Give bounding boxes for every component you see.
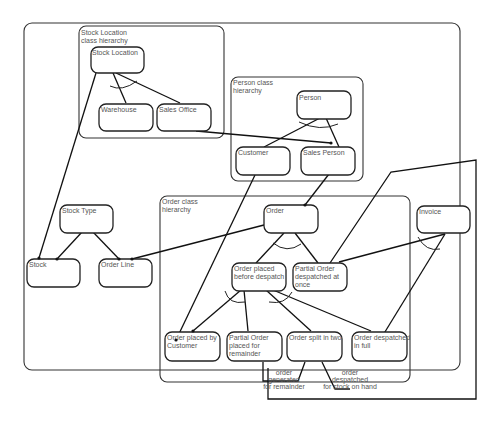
- arrowhead: [37, 256, 40, 259]
- node-label: Sales Person: [303, 149, 345, 156]
- node-invoice[interactable]: Invoice: [417, 206, 470, 233]
- node-label: remainder: [229, 350, 261, 357]
- node-label: Stock: [29, 261, 47, 268]
- node-label: Order: [266, 207, 285, 214]
- arrowhead: [130, 257, 133, 260]
- node-label: Order Line: [101, 261, 134, 268]
- group-label-line: Stock Location: [81, 29, 127, 36]
- node-label: in full: [354, 342, 371, 349]
- edge-order-order-line: [132, 225, 264, 259]
- group-label-line: Person class: [233, 79, 274, 86]
- edge-sales-office-sales-person: [196, 131, 331, 143]
- node-label: Warehouse: [101, 106, 137, 113]
- edge-label-line: for stock on hand: [323, 383, 377, 390]
- edge-label-order-despatched-for-stock-on-hand: order despatched for stock on hand: [323, 369, 377, 390]
- class-diagram: Stock Location class hierarchy Person cl…: [0, 0, 503, 421]
- edge-order-partial-order-despatched-at-once: [295, 233, 318, 263]
- arrowhead: [329, 141, 332, 144]
- arrowhead: [55, 257, 58, 260]
- edge-opbd-partial-order-placed-for-remainder: [244, 290, 248, 331]
- node-label: Invoice: [419, 208, 441, 215]
- subtype-arc: [110, 81, 137, 88]
- node-order-despatched-in-full[interactable]: Order despatched in full: [352, 332, 410, 361]
- group-label-line: hierarchy: [233, 87, 262, 95]
- node-sales-person[interactable]: Sales Person: [301, 147, 355, 175]
- node-partial-order-placed-for-remainder[interactable]: Partial Order placed for remainder: [227, 332, 282, 361]
- node-label: Order placed by: [167, 334, 217, 342]
- edge-stock-type-stock: [57, 232, 82, 259]
- node-partial-order-despatched-at-once[interactable]: Partial Order despatched at once: [293, 263, 347, 291]
- edge-sales-person-order: [305, 174, 329, 205]
- group-label-line: Order class: [162, 198, 198, 205]
- node-sales-office[interactable]: Sales Office: [157, 104, 211, 131]
- node-order-split-in-two[interactable]: Order split in two: [287, 332, 342, 361]
- node-person[interactable]: Person: [297, 91, 351, 119]
- node-label: placed for: [229, 342, 260, 350]
- node-label: despatched at: [295, 273, 339, 281]
- edge-order-order-placed-before-despatch: [256, 233, 284, 263]
- node-label: Person: [299, 94, 321, 101]
- node-label: Order despatched: [354, 334, 410, 342]
- arrowhead: [191, 329, 194, 332]
- node-label: Customer: [167, 342, 198, 349]
- arrowhead: [117, 257, 120, 260]
- node-stock-location[interactable]: Stock Location: [91, 47, 144, 73]
- group-label-line: class hierarchy: [81, 37, 128, 45]
- group-label-line: hierarchy: [162, 206, 191, 214]
- node-label: Stock Type: [62, 207, 97, 215]
- node-label: Customer: [238, 149, 269, 156]
- subtype-arc: [299, 122, 338, 128]
- node-stock[interactable]: Stock: [27, 259, 80, 287]
- node-label: Partial Order: [229, 334, 269, 341]
- edge-label-line: order: [342, 369, 359, 376]
- node-label: Order split in two: [289, 334, 342, 342]
- node-warehouse[interactable]: Warehouse: [99, 104, 153, 131]
- edge-stock-location-sales-office: [116, 73, 180, 103]
- node-label: Order placed: [234, 265, 275, 273]
- node-label: Partial Order: [295, 265, 335, 272]
- node-label: before despatch: [234, 273, 284, 281]
- edge-stock-type-order-line: [93, 232, 119, 259]
- node-label: once: [295, 281, 310, 288]
- node-order-line[interactable]: Order Line: [99, 259, 152, 287]
- edge-person-customer: [264, 118, 320, 147]
- node-order[interactable]: Order: [264, 205, 318, 233]
- node-label: Sales Office: [159, 106, 197, 113]
- node-label: Stock Location: [92, 49, 138, 56]
- edge-label-order-generated-for-remainder: order generated for remainder: [263, 369, 305, 390]
- node-stock-type[interactable]: Stock Type: [60, 205, 113, 233]
- edge-opbd-order-placed-by-customer: [193, 290, 241, 331]
- arrowhead: [303, 203, 306, 206]
- node-customer[interactable]: Customer: [236, 147, 290, 175]
- edge-label-line: order: [276, 369, 293, 376]
- subtype-arc: [273, 243, 301, 249]
- node-order-placed-by-customer[interactable]: Order placed by Customer: [165, 332, 220, 361]
- arrowhead: [174, 338, 177, 341]
- edge-label-line: for remainder: [263, 383, 305, 390]
- node-order-placed-before-despatch[interactable]: Order placed before despatch: [232, 263, 286, 291]
